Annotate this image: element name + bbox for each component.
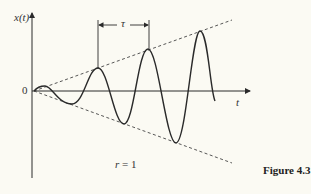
- origin-label: 0: [22, 84, 28, 96]
- period-label: τ: [119, 17, 127, 29]
- figure-caption: Figure 4.3: [263, 164, 310, 176]
- x-axis-label: t: [236, 96, 239, 108]
- parameter-eq: = 1: [119, 158, 136, 170]
- signal-curve: [34, 31, 215, 143]
- y-axis-label: x(t): [14, 11, 29, 23]
- upper-envelope: [34, 20, 232, 91]
- parameter-label: r = 1: [115, 158, 137, 170]
